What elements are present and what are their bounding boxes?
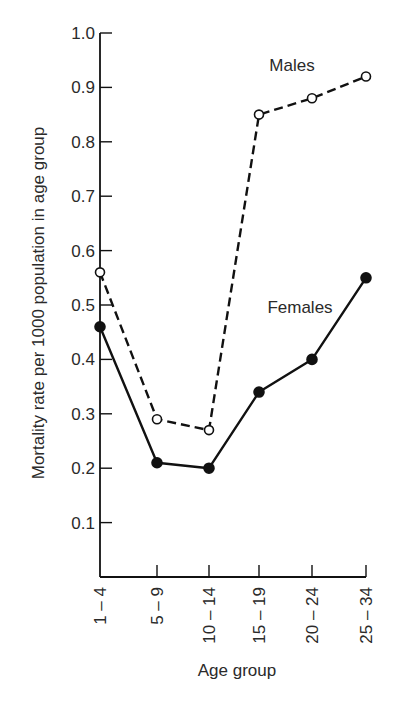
x-tick-label: 15 – 19 (250, 587, 269, 644)
x-tick-label: 1 – 4 (91, 587, 110, 625)
y-tick-label: 0.8 (71, 133, 95, 152)
data-point-males (153, 415, 162, 424)
y-axis-title: Mortality rate per 1000 population in ag… (29, 127, 48, 480)
y-tick-label: 0.7 (71, 187, 95, 206)
series-label-males: Males (269, 56, 314, 75)
y-tick-label: 0.9 (71, 78, 95, 97)
y-tick-label: 1.0 (71, 24, 95, 43)
data-point-females (204, 463, 214, 473)
y-tick-label: 0.6 (71, 242, 95, 261)
data-point-females (95, 322, 105, 332)
data-point-males (205, 426, 214, 435)
x-axis-title: Age group (198, 661, 276, 680)
y-tick-label: 0.1 (71, 514, 95, 533)
y-axis: 0.10.20.30.40.50.60.70.80.91.0 (71, 24, 112, 577)
data-point-females (152, 458, 162, 468)
y-tick-label: 0.5 (71, 296, 95, 315)
data-point-males (96, 268, 105, 277)
x-tick-label: 5 – 9 (148, 587, 167, 625)
x-tick-label: 10 – 14 (200, 587, 219, 644)
data-point-females (361, 273, 371, 283)
data-point-females (254, 387, 264, 397)
x-axis: 1 – 45 – 910 – 1415 – 1920 – 2425 – 34 (91, 565, 376, 644)
y-tick-label: 0.3 (71, 405, 95, 424)
y-tick-label: 0.4 (71, 350, 95, 369)
data-point-males (255, 110, 264, 119)
series-layer (95, 72, 371, 473)
y-tick-label: 0.2 (71, 459, 95, 478)
mortality-line-chart: 0.10.20.30.40.50.60.70.80.91.0 1 – 45 – … (0, 0, 408, 705)
x-tick-label: 25 – 34 (357, 587, 376, 644)
data-point-males (308, 94, 317, 103)
data-point-males (362, 72, 371, 81)
x-tick-label: 20 – 24 (303, 587, 322, 644)
series-label-females: Females (267, 298, 332, 317)
data-point-females (307, 354, 317, 364)
series-line-males (100, 77, 366, 431)
